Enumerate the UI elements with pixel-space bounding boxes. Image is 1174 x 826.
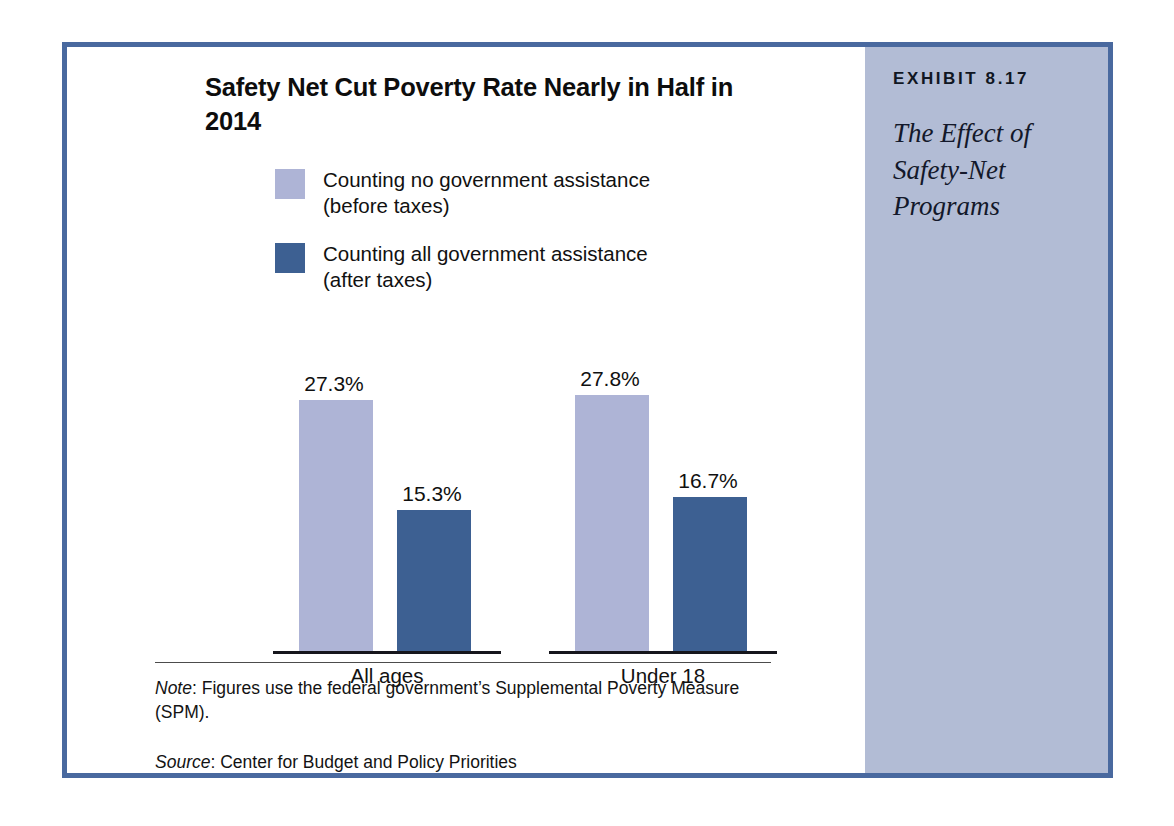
bar-under-18-after-taxes <box>673 497 747 651</box>
source-lead: Source <box>155 752 210 772</box>
bar-all-ages-after-taxes <box>397 510 471 651</box>
bar-value-label: 27.8% <box>567 367 653 391</box>
source-text: Source: Center for Budget and Policy Pri… <box>155 750 771 774</box>
note-text: Note: Figures use the federal government… <box>155 676 771 724</box>
footnote-divider <box>155 662 771 663</box>
exhibit-number: EXHIBIT 8.17 <box>893 69 1108 89</box>
bar-value-label: 16.7% <box>665 469 751 493</box>
footnotes: Note: Figures use the federal government… <box>155 662 771 774</box>
exhibit-title: The Effect of Safety-Net Programs <box>893 115 1068 225</box>
chart-panel: Safety Net Cut Poverty Rate Nearly in Ha… <box>67 47 865 773</box>
note-lead: Note <box>155 678 192 698</box>
axis-line-under-18 <box>549 651 777 654</box>
exhibit-figure: Safety Net Cut Poverty Rate Nearly in Ha… <box>62 42 1113 778</box>
exhibit-sidebar: EXHIBIT 8.17 The Effect of Safety-Net Pr… <box>865 47 1108 773</box>
bar-value-label: 27.3% <box>291 372 377 396</box>
bar-value-label: 15.3% <box>389 482 475 506</box>
bar-all-ages-before-taxes <box>299 400 373 651</box>
note-body: : Figures use the federal government’s S… <box>155 678 739 722</box>
source-body: : Center for Budget and Policy Prioritie… <box>210 752 516 772</box>
axis-line-all-ages <box>273 651 501 654</box>
bar-under-18-before-taxes <box>575 395 649 651</box>
